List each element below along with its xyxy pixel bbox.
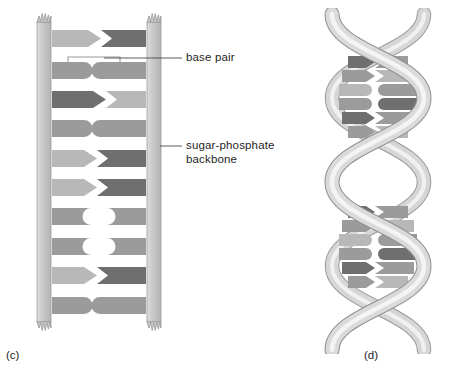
ladder-rung — [52, 297, 146, 314]
helix-backbone-front — [332, 14, 424, 350]
ladder-rung — [52, 150, 146, 167]
ladder-rung-group — [52, 30, 146, 314]
backbone-rail-right — [147, 14, 161, 331]
ladder-rung — [52, 91, 146, 108]
ladder-rung — [52, 120, 146, 137]
ladder-rung — [52, 208, 146, 225]
ladder-rung — [52, 179, 146, 196]
helix-rung — [348, 276, 408, 288]
helix-backbone-back-highlight — [332, 14, 424, 350]
panel-c-ladder — [37, 14, 161, 331]
backbone-rail-left — [37, 14, 51, 331]
ladder-rung — [52, 267, 146, 284]
backbone-label-line2: backbone — [186, 153, 237, 165]
helix-rung — [342, 262, 414, 274]
panel-d-helix — [332, 14, 424, 350]
ladder-rung — [52, 30, 146, 47]
helix-backbone-front-highlight — [332, 14, 424, 350]
panel-d-caption: (d) — [364, 349, 378, 361]
helix-backbone-back-fill — [332, 14, 424, 350]
helix-backbone-back — [332, 14, 424, 350]
helix-rung — [339, 84, 417, 96]
sugar-phosphate-backbone-label: sugar-phosphate backbone — [186, 139, 275, 166]
helix-rung — [339, 98, 417, 110]
helix-rung — [339, 248, 417, 260]
ladder-rung — [52, 62, 146, 79]
ladder-rung — [52, 238, 146, 255]
panel-c-caption: (c) — [6, 349, 19, 361]
base-pair-label: base pair — [186, 51, 235, 65]
helix-backbone-front-fill — [332, 14, 424, 350]
dna-structure-figure: base pair sugar-phosphate backbone (c) (… — [0, 0, 460, 379]
backbone-label-line1: sugar-phosphate — [186, 139, 275, 151]
